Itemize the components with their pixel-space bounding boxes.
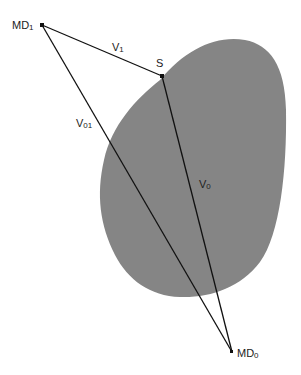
label-v01: V01 xyxy=(76,117,93,130)
vector-v1-line xyxy=(42,25,162,76)
shaded-region xyxy=(100,39,286,297)
label-md1: MD1 xyxy=(12,19,34,32)
diagram-canvas: MD1 V1 S V01 V0 MD0 xyxy=(0,0,301,375)
label-v1: V1 xyxy=(112,41,124,54)
point-s-marker xyxy=(160,74,164,78)
point-md1-marker xyxy=(40,23,44,27)
label-md0: MD0 xyxy=(237,347,259,360)
label-s: S xyxy=(156,57,163,69)
point-md0-marker xyxy=(230,350,233,353)
